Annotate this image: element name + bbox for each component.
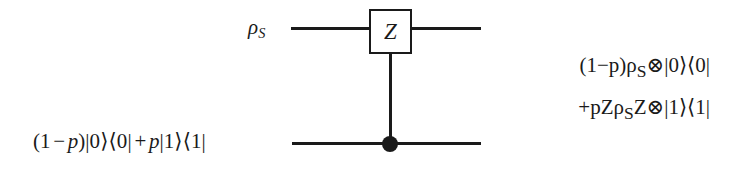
output-expression-line-1: (1−p)ρS⊗|0⟩⟨0|: [410, 55, 710, 81]
bottom-wire-segment: [292, 142, 481, 145]
quantum-circuit-figure: ρS Z (1−p)|0⟩⟨0|+p|1⟩⟨1| (1−p)ρS⊗|0⟩⟨0| …: [0, 0, 739, 169]
top-wire-input-segment: [291, 27, 371, 30]
output-expression-block: (1−p)ρS⊗|0⟩⟨0| +pZρSZ⊗|1⟩⟨1|: [410, 55, 710, 122]
control-connector-line: [389, 54, 392, 144]
z-gate-box: Z: [369, 9, 412, 54]
output-expression-line-2: +pZρSZ⊗|1⟩⟨1|: [410, 97, 710, 123]
z-gate-label: Z: [371, 11, 410, 52]
top-wire-input-label: ρS: [248, 17, 265, 40]
top-wire-output-segment: [410, 27, 481, 30]
bottom-wire-input-label: (1−p)|0⟩⟨0|+p|1⟩⟨1|: [33, 131, 206, 152]
